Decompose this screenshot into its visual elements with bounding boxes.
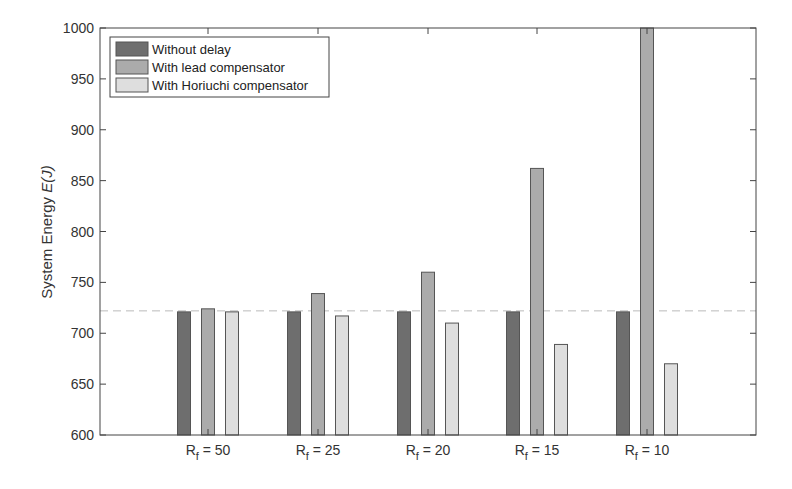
y-tick-label: 950 xyxy=(71,71,95,87)
x-tick-label: Rf = 25 xyxy=(296,442,341,462)
bar xyxy=(531,168,544,435)
y-tick-label: 900 xyxy=(71,122,95,138)
bar xyxy=(555,344,568,435)
bar xyxy=(398,312,411,435)
x-tick-label: Rf = 10 xyxy=(625,442,670,462)
legend-label: With Horiuchi compensator xyxy=(152,78,309,93)
x-tick-label: Rf = 50 xyxy=(186,442,231,462)
y-tick-label: 650 xyxy=(71,376,95,392)
y-tick-label: 750 xyxy=(71,274,95,290)
legend-label: With lead compensator xyxy=(152,60,286,75)
y-tick-label: 700 xyxy=(71,325,95,341)
bar xyxy=(422,272,435,435)
legend: Without delayWith lead compensatorWith H… xyxy=(110,37,329,97)
legend-swatch xyxy=(116,78,148,92)
y-axis-label: System Energy E(J) xyxy=(38,165,55,298)
bar xyxy=(507,312,520,435)
x-tick-label: Rf = 15 xyxy=(515,442,560,462)
bar xyxy=(178,312,191,435)
legend-swatch xyxy=(116,60,148,74)
y-tick-label: 1000 xyxy=(63,20,94,36)
bar xyxy=(202,309,215,435)
x-tick-label: Rf = 20 xyxy=(406,442,451,462)
bar xyxy=(641,28,654,435)
legend-label: Without delay xyxy=(152,42,231,57)
bar xyxy=(336,316,349,435)
bar xyxy=(288,312,301,435)
bar xyxy=(226,312,239,435)
bar xyxy=(617,312,630,435)
bar xyxy=(446,323,459,435)
y-tick-label: 850 xyxy=(71,173,95,189)
y-tick-label: 600 xyxy=(71,427,95,443)
bar xyxy=(665,364,678,435)
y-tick-label: 800 xyxy=(71,224,95,240)
legend-swatch xyxy=(116,42,148,56)
bar xyxy=(312,294,325,435)
bar-chart: 6006507007508008509009501000 Rf = 50Rf =… xyxy=(0,0,792,489)
